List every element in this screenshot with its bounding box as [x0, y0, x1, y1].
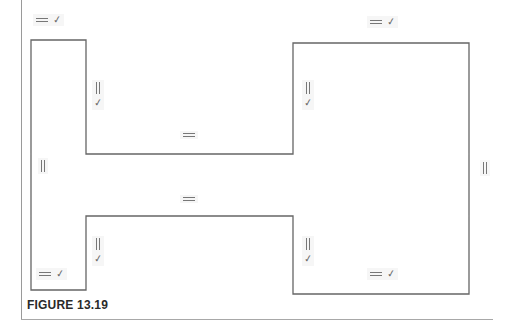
constraint-right-outer-edge	[480, 160, 490, 176]
vertical-constraint-icon	[482, 162, 488, 174]
tangent-constraint-icon: ✓	[386, 16, 396, 27]
horizontal-constraint-icon	[183, 132, 195, 138]
vertical-constraint-icon	[40, 160, 46, 172]
constraint-right-rect-left-lower: ✓	[302, 236, 314, 266]
constraint-right-rect-left-upper: ✓	[302, 80, 314, 110]
tangent-constraint-icon: ✓	[93, 97, 103, 108]
constraint-left-outer-edge	[38, 158, 48, 174]
constraint-bottom-left-edge: ✓	[36, 268, 67, 280]
constraint-left-rect-right-upper: ✓	[92, 80, 104, 110]
tangent-constraint-icon: ✓	[93, 253, 103, 264]
vertical-constraint-icon	[95, 82, 101, 94]
vertical-constraint-icon	[305, 238, 311, 250]
constraint-neck-bottom	[180, 195, 198, 203]
constraint-left-rect-right-lower: ✓	[92, 236, 104, 266]
horizontal-constraint-icon	[370, 271, 382, 277]
horizontal-constraint-icon	[39, 271, 51, 277]
tangent-constraint-icon: ✓	[52, 14, 62, 25]
constraint-top-right-edge: ✓	[367, 16, 398, 28]
vertical-constraint-icon	[305, 82, 311, 94]
horizontal-constraint-icon	[183, 196, 195, 202]
vertical-constraint-icon	[95, 238, 101, 250]
constraint-neck-top	[180, 131, 198, 139]
constraint-top-left-edge: ✓	[33, 14, 64, 26]
constraint-bottom-right-edge: ✓	[367, 268, 398, 280]
tangent-constraint-icon: ✓	[55, 268, 65, 279]
tangent-constraint-icon: ✓	[303, 97, 313, 108]
horizontal-constraint-icon	[370, 19, 382, 25]
figure-caption: FIGURE 13.19	[27, 298, 108, 312]
sketch-profile	[0, 0, 514, 328]
horizontal-constraint-icon	[36, 17, 48, 23]
tangent-constraint-icon: ✓	[386, 268, 396, 279]
tangent-constraint-icon: ✓	[303, 253, 313, 264]
